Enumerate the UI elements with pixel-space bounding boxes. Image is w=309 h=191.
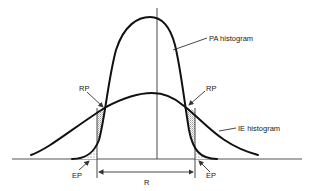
ie-histogram-label: IE histogram — [238, 124, 280, 133]
ep-left-leader — [79, 161, 89, 170]
ie-histogram-curve — [31, 93, 258, 155]
ie-histogram-leader — [219, 128, 236, 131]
ep-left-label: EP — [72, 171, 82, 180]
range-label: R — [144, 178, 150, 187]
pa-histogram-label: PA histogram — [209, 34, 253, 43]
histogram-diagram: PA histogram RP RP IE histogram EP EP R — [0, 0, 309, 191]
rp-left-label: RP — [79, 84, 89, 93]
ep-right-label: EP — [206, 171, 216, 180]
pa-histogram-leader — [173, 38, 207, 50]
rp-right-leader — [189, 91, 205, 105]
rp-left-leader — [87, 92, 103, 107]
rp-right-label: RP — [206, 84, 216, 93]
